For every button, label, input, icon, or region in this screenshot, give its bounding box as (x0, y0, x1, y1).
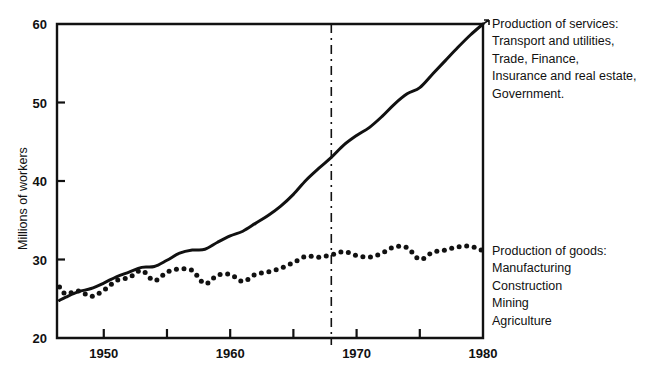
services-label-line: Trade, Finance, (492, 51, 637, 68)
series-dot (148, 276, 153, 281)
axes-frame (57, 24, 483, 338)
services-leader-arrow (483, 20, 489, 25)
services-label-line: Production of services: (492, 16, 637, 33)
series-dot (167, 269, 172, 274)
y-tick-label: 20 (33, 331, 47, 346)
series-dot (160, 273, 165, 278)
series-dot (442, 248, 447, 253)
plot-border (57, 24, 483, 338)
series-dot (232, 274, 237, 279)
series-dot (375, 252, 380, 257)
series-dot (288, 262, 293, 267)
x-tick-label: 1950 (89, 346, 118, 361)
series-dot (245, 277, 250, 282)
series-dot (360, 254, 365, 259)
series-dot (449, 246, 454, 251)
series-dot (281, 265, 286, 270)
x-tick-label: 1960 (216, 346, 245, 361)
series-dot (434, 249, 439, 254)
series-dot (225, 271, 230, 276)
series-dot (130, 273, 135, 278)
series-dot (218, 272, 223, 277)
series-dot (295, 258, 300, 263)
series-dot (154, 278, 159, 283)
series-dot (90, 294, 95, 299)
series-dot (205, 281, 210, 286)
services-label-line: Insurance and real estate, (492, 68, 637, 85)
series-dot (189, 268, 194, 273)
series-dot (464, 243, 469, 248)
series-dot (76, 288, 81, 293)
services-label-line: Transport and utilities, (492, 33, 637, 50)
series-dot (346, 250, 351, 255)
x-tick-labels: 1950196019701980 (89, 346, 497, 361)
series-dot (457, 244, 462, 249)
y-tick-label: 60 (33, 17, 47, 32)
series-dot (396, 244, 401, 249)
series-dot (427, 251, 432, 256)
series-dot (97, 291, 102, 296)
series-dot (194, 273, 199, 278)
x-tick-label: 1980 (469, 346, 498, 361)
series-dot (57, 284, 62, 289)
series-dots-goods (57, 243, 484, 298)
x-tick-label: 1970 (342, 346, 371, 361)
series-dot (181, 266, 186, 271)
series-dot (274, 267, 279, 272)
series-dot (252, 273, 257, 278)
services-label-line: Government. (492, 86, 637, 103)
series-dot (61, 291, 66, 296)
goods-label-line: Production of goods: (492, 243, 607, 260)
series-line-services (60, 24, 483, 300)
series-dot (382, 249, 387, 254)
y-tick-labels: 2030405060 (33, 17, 47, 346)
goods-label-line: Agriculture (492, 313, 607, 330)
goods-label-line: Manufacturing (492, 260, 607, 277)
series-dot (136, 269, 141, 274)
series-dot (421, 256, 426, 261)
series-dot (389, 246, 394, 251)
annotation-services: Production of services:Transport and uti… (492, 16, 637, 103)
goods-label-line: Construction (492, 278, 607, 295)
series-dot (479, 248, 484, 253)
series-dot (174, 267, 179, 272)
series-dot (211, 276, 216, 281)
series-dot (123, 276, 128, 281)
series-dot (324, 253, 329, 258)
series-dot (259, 271, 264, 276)
series-dot (409, 250, 414, 255)
y-tick-label: 40 (33, 174, 47, 189)
series-dot (353, 253, 358, 258)
y-tick-label: 30 (33, 253, 47, 268)
series-dot (338, 249, 343, 254)
series-dot (301, 255, 306, 260)
series-dot (199, 279, 204, 284)
series-dot (368, 254, 373, 259)
series-dot (143, 270, 148, 275)
series-dot (309, 254, 314, 259)
y-axis-title: Millions of workers (16, 147, 30, 250)
goods-label-line: Mining (492, 295, 607, 312)
series-dot (414, 255, 419, 260)
chart-figure: 2030405060 1950196019701980 Millions of … (0, 0, 649, 378)
series-dot (404, 245, 409, 250)
annotation-goods: Production of goods:ManufacturingConstru… (492, 243, 607, 330)
series-dot (238, 279, 243, 284)
series-dot (103, 286, 108, 291)
series-dot (331, 252, 336, 257)
series-dot (69, 290, 74, 295)
series-dot (316, 255, 321, 260)
series-dot (472, 245, 477, 250)
series-dot (83, 292, 88, 297)
series-dot (266, 269, 271, 274)
series-dot (115, 278, 120, 283)
series-dot (109, 282, 114, 287)
x-tick-marks (104, 329, 420, 338)
y-tick-label: 50 (33, 96, 47, 111)
